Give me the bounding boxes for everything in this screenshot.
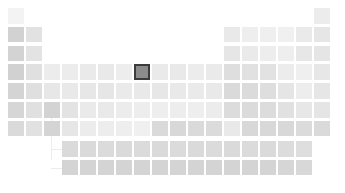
element-cell-Eu[interactable] xyxy=(152,141,168,157)
element-cell-Pb[interactable] xyxy=(242,102,258,118)
element-cell-C[interactable] xyxy=(242,27,258,43)
element-cell-Ac[interactable] xyxy=(44,121,60,137)
element-cell-Ta[interactable] xyxy=(80,102,96,118)
element-cell-N[interactable] xyxy=(260,27,276,43)
element-cell-Ra[interactable] xyxy=(26,121,42,137)
element-cell-Ru[interactable] xyxy=(134,83,150,99)
element-cell-U[interactable] xyxy=(98,160,114,176)
element-cell-Rf[interactable] xyxy=(62,121,78,137)
element-cell-Pr[interactable] xyxy=(80,141,96,157)
element-cell-Cr[interactable] xyxy=(98,64,114,80)
element-cell-No[interactable] xyxy=(278,160,294,176)
element-cell-Nb[interactable] xyxy=(80,83,96,99)
element-cell-Cn[interactable] xyxy=(206,121,222,137)
element-cell-Lr[interactable] xyxy=(296,160,312,176)
element-cell-Si[interactable] xyxy=(242,46,258,62)
element-cell-Cl[interactable] xyxy=(296,46,312,62)
element-cell-P[interactable] xyxy=(260,46,276,62)
element-cell-Mt[interactable] xyxy=(152,121,168,137)
element-cell-Ce[interactable] xyxy=(62,141,78,157)
element-cell-Pm[interactable] xyxy=(116,141,132,157)
element-cell-Rh[interactable] xyxy=(152,83,168,99)
element-cell-Re[interactable] xyxy=(116,102,132,118)
element-cell-Cs[interactable] xyxy=(8,102,24,118)
element-cell-Ga[interactable] xyxy=(224,64,240,80)
element-cell-Og[interactable] xyxy=(314,121,330,137)
element-cell-Md[interactable] xyxy=(260,160,276,176)
element-cell-Cd[interactable] xyxy=(206,83,222,99)
element-cell-Po[interactable] xyxy=(278,102,294,118)
element-cell-Bh[interactable] xyxy=(116,121,132,137)
element-cell-Rb[interactable] xyxy=(8,83,24,99)
element-cell-Mn[interactable] xyxy=(116,64,132,80)
element-cell-Db[interactable] xyxy=(80,121,96,137)
element-cell-Xe[interactable] xyxy=(314,83,330,99)
element-cell-Ge[interactable] xyxy=(242,64,258,80)
element-cell-Co[interactable] xyxy=(152,64,168,80)
element-cell-Ba[interactable] xyxy=(26,102,42,118)
element-cell-W[interactable] xyxy=(98,102,114,118)
element-cell-Hf[interactable] xyxy=(62,102,78,118)
element-cell-Fr[interactable] xyxy=(8,121,24,137)
element-cell-S[interactable] xyxy=(278,46,294,62)
element-cell-Zr[interactable] xyxy=(62,83,78,99)
element-cell-Na[interactable] xyxy=(8,46,24,62)
element-cell-H[interactable] xyxy=(8,8,24,24)
element-cell-Fl[interactable] xyxy=(242,121,258,137)
element-cell-Ds[interactable] xyxy=(170,121,186,137)
element-cell-Lu[interactable] xyxy=(296,141,312,157)
element-cell-Br[interactable] xyxy=(296,64,312,80)
element-cell-Te[interactable] xyxy=(278,83,294,99)
element-cell-Sm[interactable] xyxy=(134,141,150,157)
element-cell-Ar[interactable] xyxy=(314,46,330,62)
element-cell-Cf[interactable] xyxy=(206,160,222,176)
element-cell-Cm[interactable] xyxy=(170,160,186,176)
element-cell-Nd[interactable] xyxy=(98,141,114,157)
element-cell-In[interactable] xyxy=(224,83,240,99)
element-cell-Np[interactable] xyxy=(116,160,132,176)
element-cell-I[interactable] xyxy=(296,83,312,99)
element-cell-Er[interactable] xyxy=(242,141,258,157)
element-cell-Rn[interactable] xyxy=(314,102,330,118)
element-cell-Mg[interactable] xyxy=(26,46,42,62)
element-cell-Yb[interactable] xyxy=(278,141,294,157)
element-cell-Pu[interactable] xyxy=(134,160,150,176)
element-cell-Mo[interactable] xyxy=(98,83,114,99)
element-cell-Gd[interactable] xyxy=(170,141,186,157)
element-cell-Dy[interactable] xyxy=(206,141,222,157)
element-cell-Sb[interactable] xyxy=(260,83,276,99)
element-cell-Ca[interactable] xyxy=(26,64,42,80)
element-cell-Se[interactable] xyxy=(278,64,294,80)
element-cell-As[interactable] xyxy=(260,64,276,80)
element-cell-Y[interactable] xyxy=(44,83,60,99)
element-cell-Th[interactable] xyxy=(62,160,78,176)
element-cell-F[interactable] xyxy=(296,27,312,43)
element-cell-Hg[interactable] xyxy=(206,102,222,118)
element-cell-O[interactable] xyxy=(278,27,294,43)
element-cell-K[interactable] xyxy=(8,64,24,80)
element-cell-Cu[interactable] xyxy=(188,64,204,80)
element-cell-Am[interactable] xyxy=(152,160,168,176)
element-cell-B[interactable] xyxy=(224,27,240,43)
element-cell-Mc[interactable] xyxy=(260,121,276,137)
element-cell-Pa[interactable] xyxy=(80,160,96,176)
element-cell-Bi[interactable] xyxy=(260,102,276,118)
element-cell-Ag[interactable] xyxy=(188,83,204,99)
element-cell-At[interactable] xyxy=(296,102,312,118)
element-cell-Hs[interactable] xyxy=(134,121,150,137)
element-cell-Tc[interactable] xyxy=(116,83,132,99)
element-cell-Tl[interactable] xyxy=(224,102,240,118)
element-cell-Sr[interactable] xyxy=(26,83,42,99)
element-cell-Ir[interactable] xyxy=(152,102,168,118)
element-cell-Ho[interactable] xyxy=(224,141,240,157)
element-cell-Bk[interactable] xyxy=(188,160,204,176)
element-cell-Ne[interactable] xyxy=(314,27,330,43)
element-cell-Tm[interactable] xyxy=(260,141,276,157)
element-cell-Ti[interactable] xyxy=(62,64,78,80)
element-cell-Kr[interactable] xyxy=(314,64,330,80)
element-cell-Fe[interactable] xyxy=(134,64,150,80)
element-cell-V[interactable] xyxy=(80,64,96,80)
element-cell-Be[interactable] xyxy=(26,27,42,43)
element-cell-Nh[interactable] xyxy=(224,121,240,137)
element-cell-Tb[interactable] xyxy=(188,141,204,157)
